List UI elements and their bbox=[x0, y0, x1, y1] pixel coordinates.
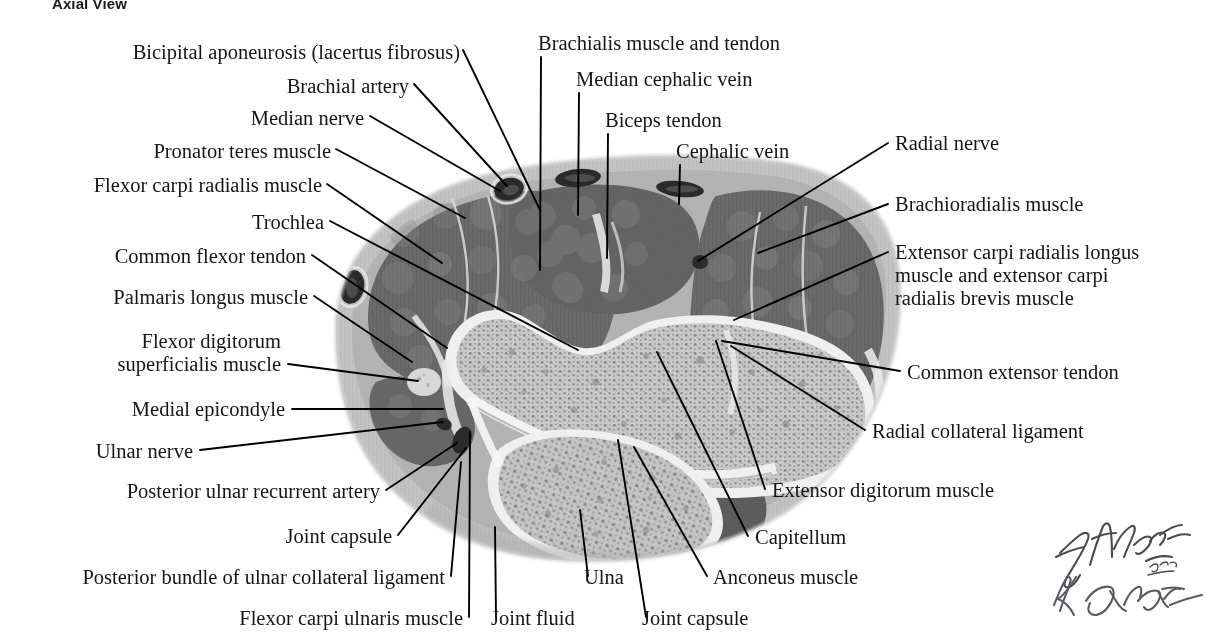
label-trochlea: Trochlea bbox=[252, 211, 324, 234]
label-pronator-teres-muscle: Pronator teres muscle bbox=[153, 140, 331, 163]
label-brachioradialis-muscle: Brachioradialis muscle bbox=[895, 193, 1083, 216]
label-ulna: Ulna bbox=[584, 566, 624, 589]
label-flexor-carpi-ulnaris-muscle: Flexor carpi ulnaris muscle bbox=[239, 607, 463, 630]
label-common-extensor-tendon: Common extensor tendon bbox=[907, 361, 1119, 384]
label-biceps-tendon: Biceps tendon bbox=[605, 109, 722, 132]
label-flexor-carpi-radialis-muscle: Flexor carpi radialis muscle bbox=[94, 174, 322, 197]
label-ulnar-nerve: Ulnar nerve bbox=[96, 440, 193, 463]
label-posterior-ulnar-recurrent-artery: Posterior ulnar recurrent artery bbox=[127, 480, 380, 503]
label-extensor-digitorum-muscle: Extensor digitorum muscle bbox=[772, 479, 994, 502]
label-median-nerve: Median nerve bbox=[251, 107, 364, 130]
label-joint-fluid: Joint fluid bbox=[491, 607, 575, 630]
label-joint-capsule-left: Joint capsule bbox=[286, 525, 392, 548]
figure-title: Axial View bbox=[52, 0, 127, 12]
label-brachial-artery: Brachial artery bbox=[287, 75, 409, 98]
label-extensor-carpi-radialis-longus-brevis: Extensor carpi radialis longus muscle an… bbox=[895, 241, 1139, 310]
label-flexor-digitorum-superficialis-muscle: Flexor digitorum superficialis muscle bbox=[118, 330, 281, 376]
axial-mri-cross-section bbox=[0, 0, 1205, 642]
label-bicipital-aponeurosis: Bicipital aponeurosis (lacertus fibrosus… bbox=[133, 41, 460, 64]
label-joint-capsule-bottom: Joint capsule bbox=[642, 607, 748, 630]
artist-signature-carter bbox=[1046, 565, 1205, 635]
label-radial-nerve: Radial nerve bbox=[895, 132, 999, 155]
label-common-flexor-tendon: Common flexor tendon bbox=[115, 245, 306, 268]
label-palmaris-longus-muscle: Palmaris longus muscle bbox=[113, 286, 308, 309]
label-radial-collateral-ligament: Radial collateral ligament bbox=[872, 420, 1084, 443]
label-brachialis-muscle-and-tendon: Brachialis muscle and tendon bbox=[538, 32, 780, 55]
label-anconeus-muscle: Anconeus muscle bbox=[713, 566, 858, 589]
label-posterior-bundle-ulnar-collateral-ligament: Posterior bundle of ulnar collateral lig… bbox=[82, 566, 445, 589]
figure-canvas: Axial View Bicipital aponeurosis (lacert… bbox=[0, 0, 1205, 642]
label-medial-epicondyle: Medial epicondyle bbox=[132, 398, 285, 421]
label-capitellum: Capitellum bbox=[755, 526, 846, 549]
label-cephalic-vein: Cephalic vein bbox=[676, 140, 789, 163]
label-median-cephalic-vein: Median cephalic vein bbox=[576, 68, 752, 91]
